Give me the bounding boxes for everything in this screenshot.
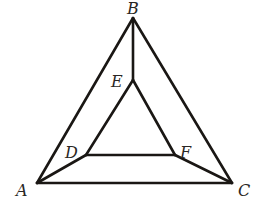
point-label-b: B bbox=[126, 0, 139, 18]
segment-de bbox=[86, 80, 133, 155]
point-label-c: C bbox=[238, 181, 250, 197]
point-label-d: D bbox=[64, 143, 78, 162]
segment-ef bbox=[133, 80, 175, 155]
segment-ab bbox=[37, 18, 133, 183]
point-label-f: F bbox=[179, 143, 192, 162]
point-label-e: E bbox=[110, 72, 123, 91]
point-label-a: A bbox=[14, 181, 28, 197]
geometry-diagram: ABCDEF bbox=[0, 0, 258, 197]
